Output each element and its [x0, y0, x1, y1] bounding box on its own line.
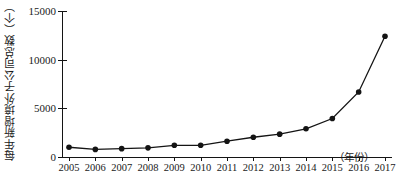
plot-area: 050001000015000 200520062007200820092010…	[62, 11, 392, 157]
data-point	[277, 131, 283, 137]
x-tick-label: 2014	[296, 163, 317, 174]
data-point	[172, 143, 178, 149]
data-point	[198, 143, 204, 149]
x-tick-mark	[306, 157, 307, 161]
series-plot	[62, 11, 392, 157]
data-point	[251, 134, 257, 140]
x-tick-label: 2007	[111, 163, 132, 174]
x-tick-label: 2013	[269, 163, 290, 174]
y-tick-mark	[58, 157, 62, 158]
x-tick-mark	[174, 157, 175, 161]
data-point	[356, 89, 362, 95]
data-point	[303, 126, 309, 132]
x-tick-mark	[201, 157, 202, 161]
line-chart: 每年新增境外子公司总数（个） 050001000015000 200520062…	[0, 0, 411, 185]
x-tick-label: 2005	[59, 163, 80, 174]
x-tick-mark	[385, 157, 386, 161]
y-tick-mark-inner	[63, 157, 67, 158]
data-point	[66, 144, 72, 150]
y-axis-title-text: 每年新增境外子公司总数（个）	[5, 0, 16, 161]
x-tick-mark	[95, 157, 96, 161]
x-tick-label: 2009	[164, 163, 185, 174]
series-line	[69, 36, 385, 149]
y-tick-label: 5000	[34, 103, 56, 114]
x-tick-mark	[69, 157, 70, 161]
x-tick-label: 2015	[322, 163, 343, 174]
series-markers	[66, 34, 388, 153]
x-tick-label: 2010	[190, 163, 211, 174]
x-tick-mark	[227, 157, 228, 161]
data-point	[224, 138, 230, 144]
x-tick-label: 2006	[85, 163, 106, 174]
x-axis-title: （年份）	[334, 152, 374, 163]
data-point	[145, 145, 151, 151]
x-tick-mark	[253, 157, 254, 161]
x-tick-mark	[122, 157, 123, 161]
y-tick-label: 0	[51, 152, 57, 163]
x-tick-label: 2017	[375, 163, 396, 174]
data-point	[330, 116, 336, 122]
y-tick-label: 10000	[29, 54, 57, 65]
y-axis-title: 每年新增境外子公司总数（个）	[0, 0, 20, 160]
data-point	[382, 34, 388, 40]
x-tick-mark	[280, 157, 281, 161]
y-tick-label: 15000	[29, 6, 57, 17]
x-tick-mark	[148, 157, 149, 161]
x-tick-label: 2016	[348, 163, 369, 174]
data-point	[93, 147, 99, 153]
x-tick-label: 2011	[217, 163, 238, 174]
x-tick-label: 2012	[243, 163, 264, 174]
x-tick-label: 2008	[138, 163, 159, 174]
data-point	[119, 146, 125, 152]
